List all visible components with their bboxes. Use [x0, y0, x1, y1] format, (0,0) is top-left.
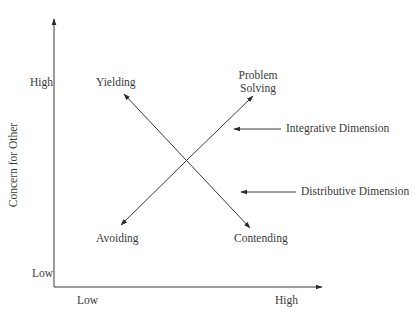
dual-concern-diagram [0, 0, 417, 315]
y-axis-high-label: High [30, 76, 53, 89]
problem-solving-line2: Solving [235, 82, 281, 95]
integrative-line-to-problem-solving [187, 96, 253, 160]
y-axis-title: Concern for Other [7, 123, 19, 207]
distributive-dimension-label: Distributive Dimension [301, 185, 409, 198]
y-axis-low-label: Low [32, 267, 53, 280]
problem-solving-line1: Problem [235, 69, 281, 82]
strategy-contending-label: Contending [234, 232, 288, 245]
distributive-line-to-contending [187, 161, 250, 228]
distributive-line-to-yielding [124, 94, 187, 161]
integrative-dimension-label: Integrative Dimension [286, 122, 389, 135]
x-axis-low-label: Low [77, 294, 98, 307]
x-axis-high-label: High [275, 294, 298, 307]
strategy-avoiding-label: Avoiding [96, 232, 139, 245]
integrative-line-to-avoiding [121, 160, 187, 225]
y-axis-title-container: Concern for Other [6, 100, 20, 230]
strategy-yielding-label: Yielding [96, 76, 136, 89]
strategy-problem-solving-label: Problem Solving [235, 69, 281, 95]
